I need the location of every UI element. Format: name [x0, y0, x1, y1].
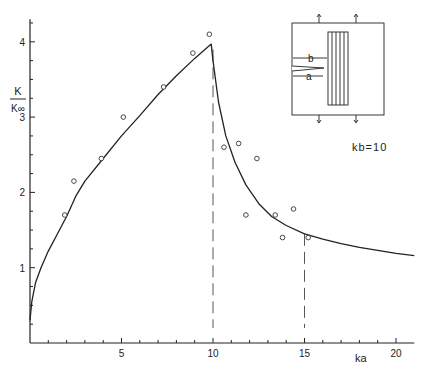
data-point: [72, 179, 77, 184]
data-point: [244, 213, 249, 218]
chart-container: 51015201234 K K∞ ka kb=10: [0, 0, 425, 376]
x-tick-label: 5: [119, 348, 125, 359]
inset-diagram: [292, 14, 384, 123]
theory-curve: [30, 44, 414, 320]
x-tick-label: 15: [299, 348, 311, 359]
reference-lines: [213, 49, 305, 328]
data-point: [62, 213, 67, 218]
experimental-points: [62, 32, 310, 240]
x-tick-label: 20: [390, 348, 402, 359]
x-axis-label: ka: [355, 352, 368, 364]
data-point: [222, 145, 227, 150]
x-tick-label: 10: [207, 348, 219, 359]
y-tick-label: 2: [19, 187, 25, 198]
y-label-numerator: K: [14, 85, 22, 97]
data-point: [161, 85, 166, 90]
data-point: [99, 156, 104, 161]
data-point: [255, 156, 260, 161]
data-point: [121, 115, 126, 120]
axes: 51015201234: [19, 19, 414, 359]
y-tick-label: 4: [19, 37, 25, 48]
data-point: [291, 207, 296, 212]
y-tick-label: 1: [19, 263, 25, 274]
y-label-denominator: K∞: [11, 103, 25, 114]
data-point: [306, 235, 311, 240]
theory-line: [30, 44, 414, 320]
y-axis-label: K K∞: [10, 85, 26, 114]
data-point: [236, 141, 241, 146]
kb-annotation: kb=10: [352, 141, 387, 153]
data-point: [280, 235, 285, 240]
data-point: [273, 213, 278, 218]
data-point: [207, 32, 212, 37]
data-point: [191, 51, 196, 56]
inset-label-b: b: [308, 53, 314, 64]
inset-label-a: a: [306, 71, 312, 82]
chart-svg: 51015201234 K K∞ ka kb=10: [0, 0, 425, 376]
